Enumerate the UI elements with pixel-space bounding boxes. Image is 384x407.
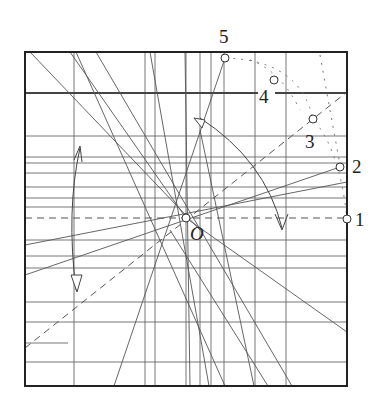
label-1: 1 <box>355 209 365 230</box>
point-5 <box>221 54 229 62</box>
label-origin: O <box>190 223 204 244</box>
label-5: 5 <box>219 26 229 47</box>
label-3: 3 <box>305 131 315 152</box>
curved-arrow-left <box>71 146 82 292</box>
point-3 <box>309 115 317 123</box>
label-2: 2 <box>352 156 362 177</box>
point-1 <box>343 215 351 223</box>
point-2 <box>336 163 344 171</box>
construction-diagram: O 1 2 3 4 5 <box>0 0 384 407</box>
point-origin <box>182 214 190 222</box>
point-4 <box>270 76 278 84</box>
label-4: 4 <box>259 86 269 107</box>
curved-arrow-center <box>194 118 288 230</box>
